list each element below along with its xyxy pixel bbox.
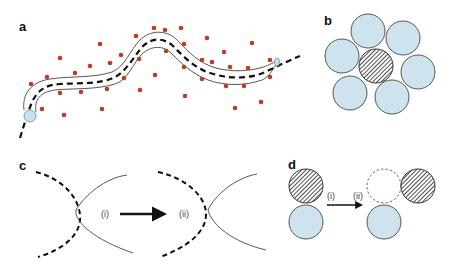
particle [222, 50, 227, 55]
panel-c: c (i) (ii) [19, 158, 266, 257]
trajectory-dashed [20, 40, 300, 138]
particle [73, 71, 78, 76]
hatched-sphere-before [289, 169, 323, 203]
particle [29, 82, 34, 87]
particle [164, 49, 169, 54]
neighbor-sphere [333, 76, 367, 110]
dashed-curve-before [36, 172, 80, 257]
particle [163, 28, 168, 33]
panel-c-label: c [19, 158, 26, 173]
particle [134, 34, 139, 39]
particle [259, 100, 264, 105]
particle [182, 65, 187, 70]
particle [228, 65, 233, 70]
tube-upper-wall [24, 32, 277, 110]
particle [98, 42, 103, 47]
particle [152, 26, 157, 31]
particle [122, 76, 127, 81]
tube-start-cap [24, 110, 36, 122]
panel-d: d (i) (ii) [288, 157, 435, 239]
panel-b: b [324, 13, 435, 114]
step-label-ii: (ii) [179, 209, 189, 219]
neighbor-sphere [325, 39, 359, 73]
particle [138, 88, 143, 93]
particle [246, 66, 251, 71]
figure-canvas: a [0, 0, 456, 267]
tube [24, 32, 277, 112]
vacancy-dashed-circle [367, 169, 401, 203]
figure: a [0, 0, 456, 267]
central-hatched-sphere [359, 49, 393, 83]
tube-end-cap [275, 58, 280, 66]
particle [100, 107, 105, 112]
neighbor-sphere [386, 21, 420, 55]
particle [242, 84, 247, 89]
particle [250, 41, 255, 46]
particle [105, 87, 110, 92]
panel-a-label: a [19, 19, 27, 34]
panel-d-label: d [288, 157, 296, 172]
particle [58, 56, 63, 61]
blue-sphere-before [289, 205, 323, 239]
particle [233, 106, 238, 111]
step-label-i: (i) [101, 209, 109, 219]
step-label-i: (i) [327, 191, 335, 201]
panel-b-label: b [324, 13, 332, 28]
particle [45, 75, 50, 80]
particle [182, 42, 187, 47]
particle [88, 64, 93, 69]
neighbor-sphere [351, 14, 385, 48]
particle [205, 36, 210, 41]
particle [40, 107, 45, 112]
particles [29, 26, 273, 118]
particle [179, 26, 184, 31]
particle [153, 73, 158, 78]
neighbor-sphere [375, 80, 409, 114]
step-label-ii: (ii) [353, 191, 363, 201]
blue-sphere-after [367, 205, 401, 239]
particle [62, 113, 67, 118]
tube-lower-wall [36, 47, 277, 112]
hatched-sphere-after [401, 169, 435, 203]
panel-a: a [19, 19, 300, 138]
particle [268, 58, 273, 63]
particle [119, 53, 124, 58]
particle [268, 75, 273, 80]
particle [200, 77, 205, 82]
solid-curve-after [208, 174, 266, 250]
particle [210, 60, 215, 65]
particle [183, 94, 188, 99]
particle [137, 57, 142, 62]
particle [108, 61, 113, 66]
particle [224, 84, 229, 89]
particle [200, 58, 205, 63]
particle [58, 91, 63, 96]
particle [79, 90, 84, 95]
neighbor-sphere [401, 55, 435, 89]
